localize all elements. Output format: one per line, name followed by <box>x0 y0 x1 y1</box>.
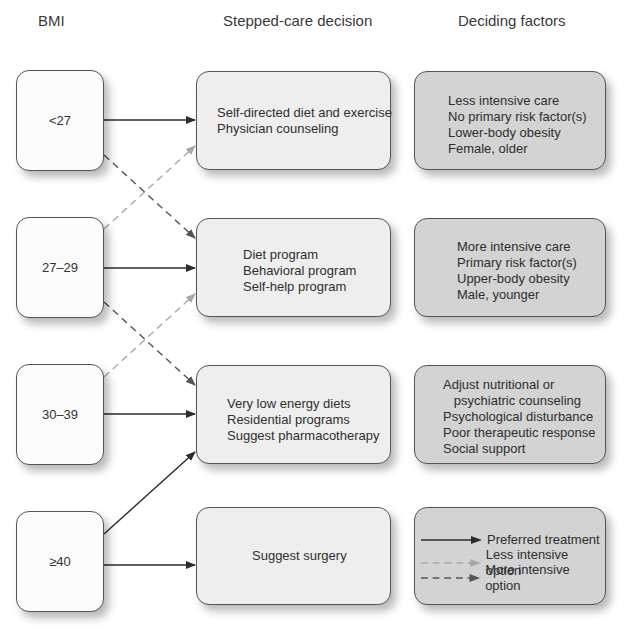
decision-line: Residential programs <box>227 412 379 428</box>
decision-line: Behavioral program <box>243 263 356 279</box>
bmi-label: <27 <box>49 113 71 128</box>
factor-line: Adjust nutritional or <box>443 377 595 393</box>
bmi-label: 27–29 <box>42 260 78 275</box>
factor-line: Poor therapeutic response <box>443 425 595 441</box>
legend-more-intensive: More intensive option <box>421 562 605 594</box>
legend-label: More intensive option <box>485 562 605 594</box>
factor-line: Upper-body obesity <box>457 271 577 287</box>
arrow-ge40-to-vled <box>104 452 195 534</box>
factor-line: Male, younger <box>457 287 577 303</box>
factor-line: psychiatric counseling <box>443 393 595 409</box>
factor-line: Psychological disturbance <box>443 409 595 425</box>
factor-line: More intensive care <box>457 239 577 255</box>
arrow-more-27-29 <box>104 302 195 385</box>
factor-box-2: More intensive care Primary risk factor(… <box>414 218 606 317</box>
arrow-less-30-39 <box>104 294 195 377</box>
factor-line: Primary risk factor(s) <box>457 255 577 271</box>
factor-line: Social support <box>443 441 595 457</box>
factor-box-1: Less intensive care No primary risk fact… <box>414 71 606 170</box>
factor-line: Female, older <box>448 141 587 157</box>
bmi-box-ge40: ≥40 <box>16 511 104 612</box>
decision-line: Self-directed diet and exercise <box>217 105 392 121</box>
bmi-box-27-29: 27–29 <box>16 217 104 318</box>
decision-line: Suggest pharmacotherapy <box>227 428 379 444</box>
factor-line: No primary risk factor(s) <box>448 109 587 125</box>
factor-line: Less intensive care <box>448 93 587 109</box>
legend-box: Preferred treatment Less intensive optio… <box>414 507 606 605</box>
decision-box-4: Suggest surgery <box>196 507 391 605</box>
factor-box-3: Adjust nutritional or psychiatric counse… <box>414 365 606 464</box>
solid-arrow-icon <box>421 535 483 545</box>
arrow-more-lt27 <box>104 155 195 238</box>
decision-box-1: Self-directed diet and exercise Physicia… <box>196 71 391 170</box>
decision-line: Self-help program <box>243 279 356 295</box>
legend-preferred: Preferred treatment <box>421 532 600 548</box>
bmi-box-lt27: <27 <box>16 70 104 171</box>
bmi-label: 30–39 <box>42 407 78 422</box>
decision-line: Diet program <box>243 247 356 263</box>
decision-box-2: Diet program Behavioral program Self-hel… <box>196 218 391 317</box>
legend-label: Preferred treatment <box>487 532 600 548</box>
decision-box-3: Very low energy diets Residential progra… <box>196 365 391 464</box>
arrow-less-27-29 <box>104 146 195 229</box>
dark-dashed-arrow-icon <box>421 573 481 583</box>
decision-line: Suggest surgery <box>252 548 347 564</box>
bmi-box-30-39: 30–39 <box>16 364 104 465</box>
bmi-label: ≥40 <box>49 554 71 569</box>
factor-line: Lower-body obesity <box>448 125 587 141</box>
decision-line: Physician counseling <box>217 121 392 137</box>
decision-line: Very low energy diets <box>227 396 379 412</box>
